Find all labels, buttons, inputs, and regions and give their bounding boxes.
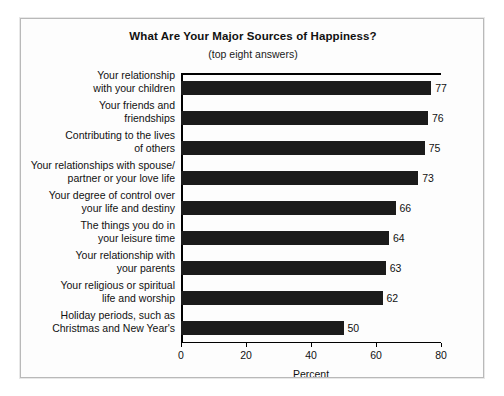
bar [181, 171, 418, 185]
bar [181, 291, 383, 305]
bar-value-label: 76 [428, 111, 444, 125]
x-tick-label: 60 [370, 349, 382, 361]
bar [181, 201, 396, 215]
bar [181, 231, 389, 245]
x-tick-label: 40 [305, 349, 317, 361]
bar-value-label: 64 [389, 231, 405, 245]
x-tick [441, 343, 442, 347]
bar-row: 50Holiday periods, such as Christmas and… [181, 313, 441, 343]
category-label: Holiday periods, such as Christmas and N… [20, 309, 175, 335]
x-tick [246, 343, 247, 347]
chart-subtitle: (top eight answers) [21, 47, 484, 62]
x-tick [376, 343, 377, 347]
category-label: Your religious or spiritual life and wor… [20, 279, 175, 305]
category-label: Your relationship with your parents [20, 249, 175, 275]
x-tick-label: 80 [435, 349, 447, 361]
x-tick-label: 20 [240, 349, 252, 361]
category-label: Your friends and friendships [20, 99, 175, 125]
title-block: What Are Your Major Sources of Happiness… [21, 29, 484, 62]
category-label: The things you do in your leisure time [20, 219, 175, 245]
bar-value-label: 50 [344, 321, 360, 335]
bar-row: 76Your friends and friendships [181, 103, 441, 133]
bar [181, 111, 428, 125]
bar-value-label: 77 [431, 81, 447, 95]
bar-value-label: 75 [425, 141, 441, 155]
bar-row: 73Your relationships with spouse/ partne… [181, 163, 441, 193]
plot-area: 77Your relationship with your children76… [181, 73, 441, 343]
page-title: What Are Your Major Sources of Happiness… [21, 29, 484, 44]
bar-value-label: 73 [418, 171, 434, 185]
x-axis-title: Percent [181, 368, 441, 378]
category-label: Your relationship with your children [20, 69, 175, 95]
bar-value-label: 66 [396, 201, 412, 215]
bar [181, 261, 386, 275]
bar-value-label: 62 [383, 291, 399, 305]
bar-row: 62Your religious or spiritual life and w… [181, 283, 441, 313]
category-label: Your relationships with spouse/ partner … [20, 159, 175, 185]
bar-row: 75Contributing to the lives of others [181, 133, 441, 163]
x-tick [311, 343, 312, 347]
bar-row: 64The things you do in your leisure time [181, 223, 441, 253]
chart-figure: What Are Your Major Sources of Happiness… [20, 18, 484, 378]
bar-row: 66Your degree of control over your life … [181, 193, 441, 223]
bar [181, 321, 344, 335]
bar [181, 141, 425, 155]
bar-row: 77Your relationship with your children [181, 73, 441, 103]
bar [181, 81, 431, 95]
x-tick-label: 0 [178, 349, 184, 361]
category-label: Your degree of control over your life an… [20, 189, 175, 215]
bar-row: 63Your relationship with your parents [181, 253, 441, 283]
x-tick [181, 343, 182, 347]
category-label: Contributing to the lives of others [20, 129, 175, 155]
bar-value-label: 63 [386, 261, 402, 275]
